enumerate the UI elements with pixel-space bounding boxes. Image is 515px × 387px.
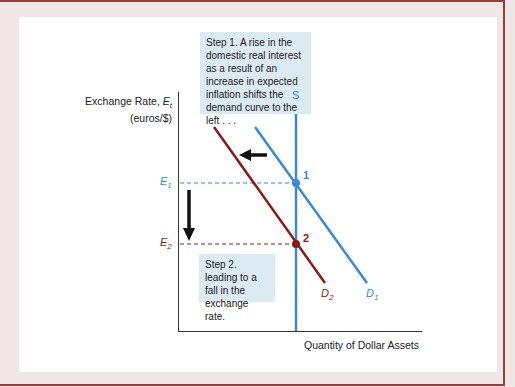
d1-label: D1	[366, 287, 378, 302]
point1-label: 1	[303, 169, 309, 181]
step1-text: Step 1. A rise in the domestic real inte…	[206, 37, 301, 126]
y-axis-label: Exchange Rate, Et (euros/$)	[75, 95, 172, 125]
step2-callout: Step 2. leading to a fall in the exchang…	[199, 254, 275, 302]
supply-label: S	[292, 89, 299, 101]
e2-label: E2	[160, 236, 172, 251]
point2-label: 2	[303, 232, 309, 244]
left-arrow-icon	[239, 149, 251, 161]
figure-frame: Step 1. A rise in the domestic real inte…	[0, 0, 515, 387]
e1-label: E1	[160, 175, 172, 190]
x-axis-label: Quantity of Dollar Assets	[304, 339, 419, 351]
equilibrium-point-1	[292, 179, 300, 187]
step1-callout: Step 1. A rise in the domestic real inte…	[200, 32, 311, 114]
d2-label: D2	[321, 287, 333, 302]
down-arrow-icon	[183, 228, 195, 241]
equilibrium-point-2	[292, 240, 300, 248]
